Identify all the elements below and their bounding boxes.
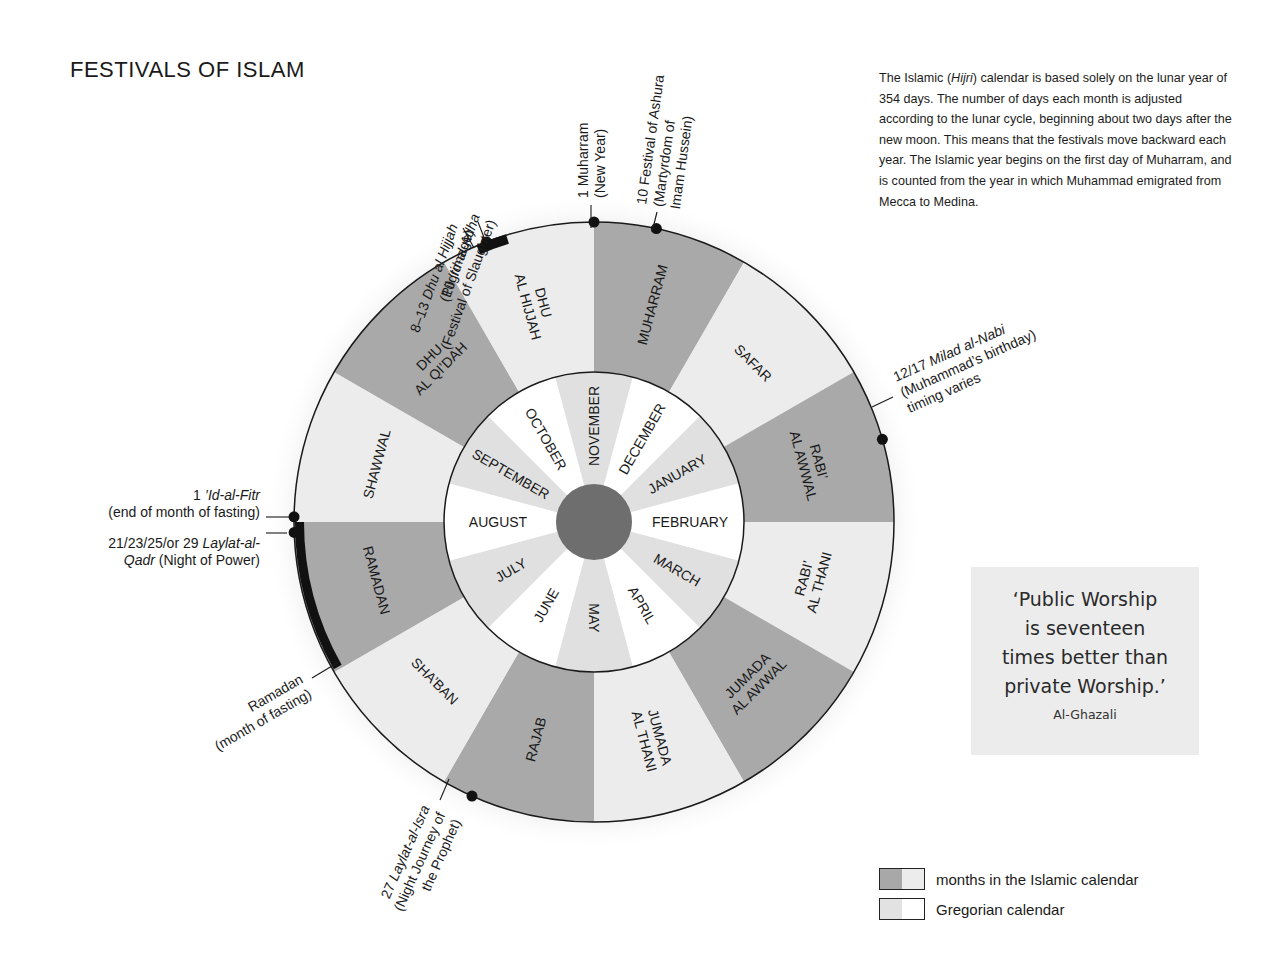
annotation-ramadan: Ramadan(month of fasting) xyxy=(203,671,314,754)
gregorian-month-label: FEBRUARY xyxy=(652,514,729,530)
quote-line: ‘Public Worship xyxy=(971,585,1199,614)
annotation-new-year: 1 Muharram(New Year) xyxy=(575,123,608,198)
annotation-milad-al-nabi: 12/17 Milad al-Nabi(Muhammad’s birthday)… xyxy=(891,310,1045,415)
gregorian-month-label: NOVEMBER xyxy=(586,386,602,466)
legend-label: Gregorian calendar xyxy=(936,901,1064,918)
legend-item-gregorian: Gregorian calendar xyxy=(879,894,1139,924)
quote-line: private Worship.’ xyxy=(971,672,1199,701)
legend-label: months in the Islamic calendar xyxy=(936,871,1139,888)
laylat-al-isra-marker xyxy=(466,791,477,802)
annotation-laylat-al-qadr: 21/23/25/or 29 Laylat-al-Qadr (Night of … xyxy=(108,535,260,568)
new-year-marker xyxy=(589,217,600,228)
annotation-id-al-fitr: 1 ’Id-al-Fitr(end of month of fasting) xyxy=(108,487,261,520)
center-hub xyxy=(556,484,632,560)
gregorian-month-label: MAY xyxy=(586,603,602,633)
quote-line: times better than xyxy=(971,643,1199,672)
laylat-al-qadr-marker xyxy=(289,527,300,538)
quote-box: ‘Public Worship is seventeen times bette… xyxy=(971,567,1199,755)
annotation-ashura: 10 Festival of Ashura(Martyrdom ofImam H… xyxy=(633,74,701,211)
legend-item-islamic: months in the Islamic calendar xyxy=(879,864,1139,894)
calendar-wheel: MUHARRAMSAFARRABI’AL AWWALRABI’AL THANIJ… xyxy=(0,0,1278,968)
legend: months in the Islamic calendar Gregorian… xyxy=(879,864,1139,924)
gregorian-swatch xyxy=(879,898,925,920)
id-al-fitr-marker xyxy=(289,511,300,522)
milad-al-nabi-marker xyxy=(877,434,888,445)
quote-text: ‘Public Worship is seventeen times bette… xyxy=(971,585,1199,701)
annotation-laylat-al-isra: 27 Laylat-al-Isra(Night Journey ofthe Pr… xyxy=(375,803,464,921)
quote-author: Al-Ghazali xyxy=(971,707,1199,722)
quote-line: is seventeen xyxy=(971,614,1199,643)
gregorian-month-label: AUGUST xyxy=(469,514,528,530)
islamic-swatch xyxy=(879,868,925,890)
